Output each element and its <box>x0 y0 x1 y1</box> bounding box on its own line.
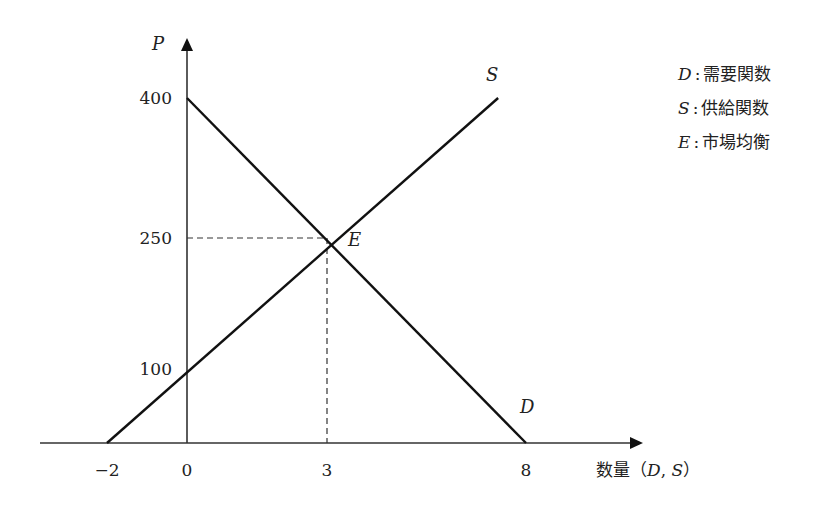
series-labels: SDE <box>347 64 535 417</box>
legend-symbol: S <box>678 98 690 118</box>
legend-entry: S:供給関数 <box>678 98 769 118</box>
y-axis-label: P <box>151 33 165 54</box>
legend-entry: E:市場均衡 <box>677 132 770 152</box>
tick-labels: −2038100250400 <box>94 88 531 480</box>
x-axis-label: 数量（D, S） <box>596 460 700 480</box>
demand-curve <box>187 98 526 443</box>
demand-curve-label: D <box>519 396 535 417</box>
y-tick-label: 100 <box>140 359 172 379</box>
equilibrium-label: E <box>347 229 361 250</box>
legend-separator: : <box>693 98 699 118</box>
legend: D:需要関数S:供給関数E:市場均衡 <box>677 64 771 152</box>
x-axis-label-prefix: 数量（ <box>596 460 647 480</box>
supply-curve <box>107 98 498 443</box>
x-axis-label-suffix: ） <box>683 460 700 480</box>
y-tick-label: 400 <box>140 88 172 108</box>
legend-symbol: E <box>677 132 691 152</box>
x-axis-label-sep: , <box>661 460 672 480</box>
x-tick-label: 3 <box>322 460 333 480</box>
y-tick-label: 250 <box>140 228 172 248</box>
legend-text: 需要関数 <box>703 64 771 84</box>
legend-separator: : <box>693 132 699 152</box>
legend-entry: D:需要関数 <box>677 64 771 84</box>
legend-symbol: D <box>677 64 692 84</box>
x-axis-label-var-s: S <box>671 460 683 480</box>
x-axis-arrow-icon <box>630 437 643 449</box>
y-axis-arrow-icon <box>181 38 193 51</box>
supply-curve-label: S <box>486 64 498 85</box>
x-tick-label: 8 <box>521 460 532 480</box>
legend-separator: : <box>695 64 701 84</box>
x-tick-label: 0 <box>182 460 193 480</box>
x-axis-label-var-d: D <box>646 460 661 480</box>
supply-demand-chart: P 数量（D, S） −2038100250400 SDE D:需要関数S:供給… <box>0 0 819 516</box>
legend-text: 市場均衡 <box>702 132 770 152</box>
x-tick-label: −2 <box>94 460 119 480</box>
legend-text: 供給関数 <box>701 98 769 118</box>
series-lines <box>107 98 526 443</box>
